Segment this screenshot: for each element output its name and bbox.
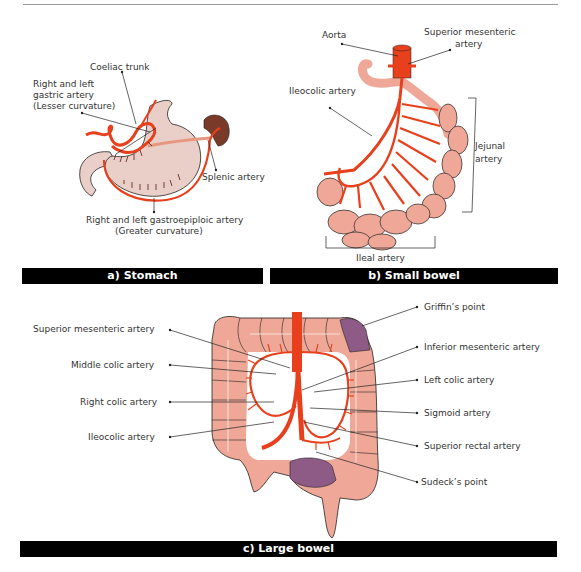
caption-stomach: a) Stomach	[22, 268, 263, 284]
caption-small-bowel: b) Small bowel	[270, 268, 558, 284]
label-ileocolic-lb: Ileocolic artery	[88, 432, 155, 443]
label-jejunal-line2: artery	[475, 154, 502, 165]
label-sma-line2: artery	[455, 39, 482, 50]
label-sudecks-point: Sudeck’s point	[421, 477, 487, 488]
label-gastric-artery-line3: (Lesser curvature)	[33, 101, 115, 112]
small-bowel-drawing	[317, 43, 476, 250]
label-gastric-artery-line2: gastric artery	[33, 90, 94, 101]
label-superior-rectal: Superior rectal artery	[424, 441, 521, 452]
label-aorta: Aorta	[322, 30, 346, 41]
stomach-drawing	[80, 71, 230, 213]
label-ileal-artery: Ileal artery	[356, 253, 405, 264]
label-gastroepiploic-line2: (Greater curvature)	[115, 226, 203, 237]
label-ileocolic-artery-sb: Ileocolic artery	[289, 86, 356, 97]
label-left-colic: Left colic artery	[424, 375, 494, 386]
label-gastroepiploic-line1: Right and left gastroepiploic artery	[86, 215, 243, 226]
label-sigmoid: Sigmoid artery	[424, 408, 491, 419]
caption-large-bowel: c) Large bowel	[20, 541, 557, 557]
label-right-colic: Right colic artery	[80, 397, 157, 408]
label-griffins-point: Griffin’s point	[424, 302, 485, 313]
label-jejunal-line1: Jejunal	[475, 141, 505, 152]
large-bowel-drawing	[169, 306, 418, 538]
label-sma-line1: Superior mesenteric	[424, 27, 515, 38]
label-middle-colic: Middle colic artery	[71, 360, 154, 371]
label-gastric-artery-line1: Right and left	[33, 79, 94, 90]
label-ima: Inferior mesenteric artery	[424, 342, 540, 353]
label-coeliac-trunk: Coeliac trunk	[90, 62, 150, 73]
label-splenic-artery: Splenic artery	[202, 172, 265, 183]
label-sma-lb: Superior mesenteric artery	[33, 324, 155, 335]
